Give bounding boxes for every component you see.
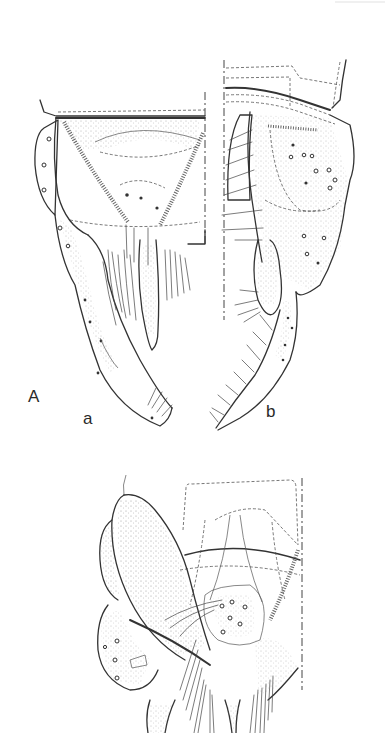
- drawing-a: [35, 92, 205, 426]
- subfigure-label-b: b: [266, 403, 275, 420]
- drawing-lower: [98, 475, 302, 733]
- figure-plate: A a b: [0, 0, 391, 733]
- drawing-b: [210, 60, 354, 430]
- illustration-drawings: [0, 0, 391, 733]
- subfigure-label-a: a: [83, 410, 92, 427]
- panel-label-A: A: [28, 388, 39, 405]
